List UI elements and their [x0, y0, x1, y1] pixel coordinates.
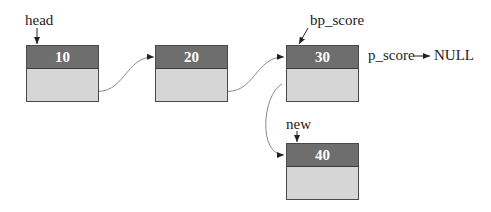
- node-value: 30: [287, 46, 358, 69]
- node-40: 40: [286, 143, 359, 200]
- head-label: head: [25, 12, 53, 29]
- bp-score-label: bp_score: [310, 12, 364, 29]
- node-10: 10: [26, 45, 99, 102]
- link-arrow-1: [92, 57, 154, 91]
- arrows-layer: [0, 0, 491, 212]
- node-30: 30: [286, 45, 359, 102]
- p-score-label: p_score: [368, 47, 415, 64]
- node-value: 10: [27, 46, 98, 69]
- bp-score-arrow: [299, 28, 308, 44]
- node-value: 20: [156, 46, 227, 69]
- link-arrow-3: [266, 84, 284, 155]
- null-label: NULL: [434, 47, 474, 64]
- node-20: 20: [155, 45, 228, 102]
- node-value: 40: [287, 144, 358, 167]
- new-label: new: [286, 116, 311, 133]
- link-arrow-2: [222, 57, 284, 91]
